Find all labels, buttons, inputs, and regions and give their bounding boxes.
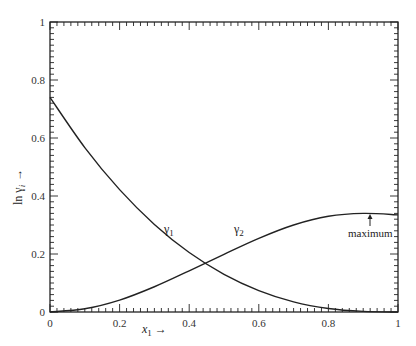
maximum-label: maximum <box>348 227 393 239</box>
y-tick-label: 0.2 <box>31 248 45 260</box>
plot-frame <box>50 22 398 312</box>
activity-coefficient-chart: 00.20.40.60.8100.20.40.60.81 x1→ ln γi→ … <box>0 0 416 346</box>
y-tick-label: 0 <box>40 306 46 318</box>
gamma1-curve <box>50 97 398 312</box>
x-tick-label: 0.4 <box>182 317 196 329</box>
tick-labels: 00.20.40.60.8100.20.40.60.81 <box>31 16 401 329</box>
gamma2-label: γ2 <box>233 222 244 238</box>
x-tick-label: 0 <box>47 317 53 329</box>
maximum-arrow-icon <box>368 214 373 226</box>
gamma1-label: γ1 <box>163 222 174 238</box>
x-axis-label: x1→ <box>141 322 167 338</box>
gamma2-curve <box>50 213 398 312</box>
y-tick-label: 0.6 <box>31 132 45 144</box>
y-tick-label: 0.8 <box>31 74 45 86</box>
y-axis-label: ln γi→ <box>11 169 27 205</box>
y-tick-label: 0.4 <box>31 190 45 202</box>
x-tick-label: 1 <box>395 317 401 329</box>
x-tick-label: 0.2 <box>113 317 127 329</box>
x-tick-label: 0.8 <box>322 317 336 329</box>
axis-ticks <box>50 22 398 312</box>
curves <box>50 97 398 312</box>
x-tick-label: 0.6 <box>252 317 266 329</box>
y-tick-label: 1 <box>40 16 46 28</box>
